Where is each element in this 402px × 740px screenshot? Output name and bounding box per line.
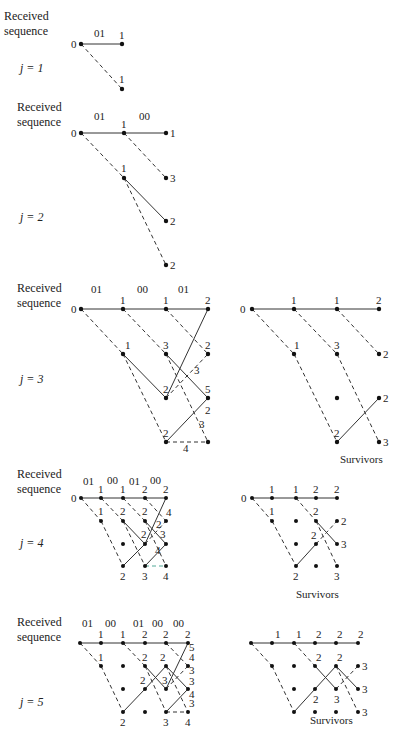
svg-text:1: 1 [120, 483, 126, 495]
svg-text:1: 1 [163, 294, 169, 306]
svg-text:2: 2 [170, 215, 176, 227]
svg-text:4: 4 [163, 570, 169, 582]
received-symbol: 00 [139, 110, 151, 122]
j-label: j = 1 [18, 61, 43, 75]
sequence-label: sequence [17, 115, 61, 129]
svg-text:2: 2 [163, 427, 169, 439]
svg-text:4: 4 [155, 544, 161, 556]
svg-text:3: 3 [160, 528, 166, 540]
svg-text:4: 4 [189, 651, 195, 663]
received-symbol: 00 [107, 474, 119, 486]
received-symbol: 01 [129, 475, 140, 487]
svg-text:3: 3 [341, 538, 347, 550]
svg-text:2: 2 [337, 628, 343, 640]
svg-text:2: 2 [140, 674, 146, 686]
received-label: Received [17, 467, 62, 481]
svg-text:3: 3 [362, 660, 368, 672]
sequence-label: sequence [17, 482, 61, 496]
sequence-label: sequence [4, 24, 48, 38]
svg-text:2: 2 [334, 483, 340, 495]
received-label: Received [17, 281, 62, 295]
svg-text:4: 4 [166, 506, 172, 518]
svg-text:2: 2 [163, 483, 169, 495]
svg-text:2: 2 [163, 383, 169, 395]
sequence-label: sequence [17, 296, 61, 310]
received-symbol: 01 [83, 475, 94, 487]
svg-text:0: 0 [240, 303, 246, 315]
received-symbol: 01 [82, 617, 93, 629]
j-label: j = 2 [18, 210, 43, 224]
survivors-label: Survivors [340, 453, 383, 465]
svg-text:1: 1 [269, 505, 275, 517]
svg-text:2: 2 [205, 339, 211, 351]
svg-text:2: 2 [376, 294, 382, 306]
stage-j5: Received sequence j = 5 01 00 01 00 00 1… [17, 615, 368, 728]
svg-text:1: 1 [269, 483, 275, 495]
svg-text:3: 3 [170, 172, 176, 184]
svg-text:3: 3 [163, 716, 169, 728]
survivors-label: Survivors [310, 714, 353, 726]
svg-text:3: 3 [163, 339, 169, 351]
svg-text:2: 2 [205, 294, 211, 306]
svg-text:0: 0 [71, 127, 77, 139]
received-symbol: 00 [150, 474, 162, 486]
svg-text:3: 3 [189, 675, 195, 687]
stage-j4: Received sequence j = 4 01 00 01 00 0 1 … [17, 467, 347, 600]
svg-text:4: 4 [185, 716, 191, 728]
sequence-label: sequence [17, 630, 61, 644]
svg-text:2: 2 [142, 651, 148, 663]
svg-text:2: 2 [311, 529, 317, 541]
svg-text:3: 3 [383, 436, 389, 448]
stage-j3: Received sequence j = 3 01 00 01 0 1 1 2… [17, 281, 389, 465]
svg-text:2: 2 [293, 570, 299, 582]
received-label: Received [17, 615, 62, 629]
svg-text:1: 1 [275, 628, 281, 640]
svg-text:3: 3 [334, 693, 340, 705]
received-symbol: 00 [137, 283, 149, 295]
svg-text:1: 1 [125, 339, 131, 351]
svg-text:1: 1 [296, 628, 302, 640]
svg-text:2: 2 [205, 404, 211, 416]
j-label: j = 3 [18, 372, 43, 386]
svg-text:1: 1 [119, 29, 125, 41]
svg-text:1: 1 [170, 127, 176, 139]
survivors-label: Survivors [296, 588, 339, 600]
svg-text:3: 3 [362, 706, 368, 718]
svg-text:5: 5 [205, 383, 211, 395]
svg-text:1: 1 [121, 162, 127, 174]
received-symbol: 00 [152, 617, 164, 629]
received-label: Received [4, 9, 49, 23]
svg-text:0: 0 [71, 38, 77, 50]
svg-text:2: 2 [313, 693, 319, 705]
svg-text:3: 3 [334, 339, 340, 351]
svg-text:3: 3 [199, 418, 205, 430]
svg-text:2: 2 [185, 628, 191, 640]
svg-text:3: 3 [334, 570, 340, 582]
svg-text:1: 1 [98, 651, 104, 663]
svg-text:0: 0 [241, 492, 247, 504]
svg-text:1: 1 [334, 294, 340, 306]
svg-text:1: 1 [294, 339, 300, 351]
svg-text:4: 4 [183, 442, 189, 454]
svg-text:2: 2 [337, 651, 343, 663]
svg-text:1: 1 [98, 628, 104, 640]
svg-text:3: 3 [194, 364, 200, 376]
svg-text:2: 2 [383, 348, 389, 360]
svg-text:2: 2 [141, 528, 147, 540]
svg-text:0: 0 [71, 492, 77, 504]
received-symbol: 01 [94, 27, 105, 39]
svg-text:2: 2 [163, 628, 169, 640]
svg-text:2: 2 [170, 259, 176, 271]
svg-text:1: 1 [120, 294, 126, 306]
svg-text:1: 1 [121, 118, 127, 130]
svg-text:3: 3 [189, 697, 195, 709]
svg-text:0: 0 [71, 303, 77, 315]
received-symbol: 00 [173, 617, 185, 629]
svg-text:2: 2 [120, 716, 126, 728]
svg-text:2: 2 [160, 651, 166, 663]
svg-text:1: 1 [120, 628, 126, 640]
received-symbol: 01 [94, 110, 105, 122]
svg-text:3: 3 [362, 683, 368, 695]
svg-text:3: 3 [142, 570, 148, 582]
svg-text:2: 2 [358, 628, 364, 640]
